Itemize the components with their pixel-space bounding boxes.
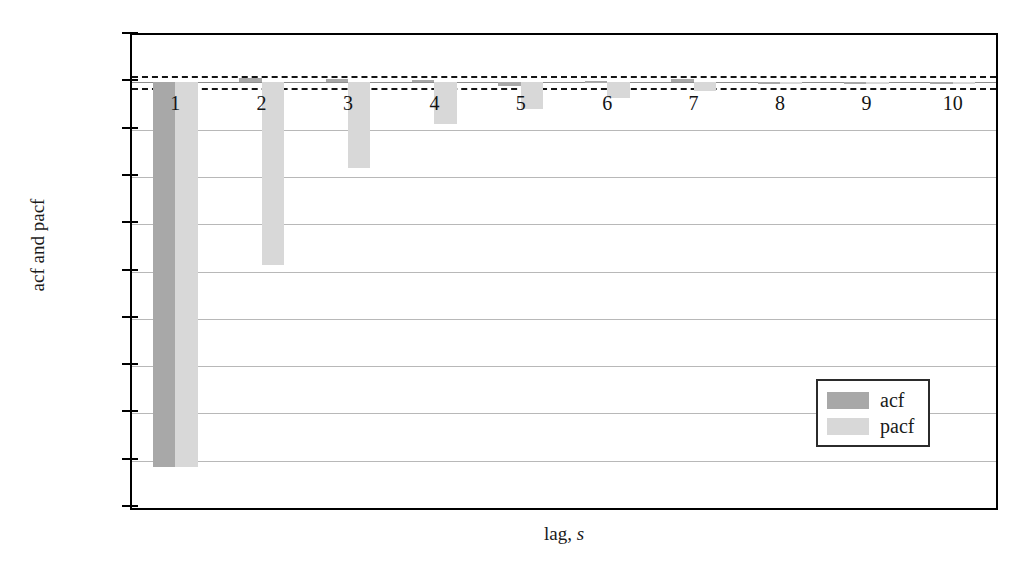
bar-pacf-lag-7 — [694, 82, 716, 91]
bar-acf-lag-1 — [153, 82, 175, 467]
bar-acf-lag-7 — [671, 79, 693, 82]
bar-pacf-lag-8 — [780, 82, 802, 84]
bar-pacf-lag-9 — [866, 82, 888, 84]
y-axis-tick-mark — [122, 458, 138, 460]
x-axis-tick-label-lag-3: 3 — [318, 93, 378, 113]
gridline — [132, 366, 996, 367]
x-axis-tick-label-lag-7: 7 — [664, 93, 724, 113]
x-axis-tick-label-lag-4: 4 — [404, 93, 464, 113]
y-axis-tick-mark — [122, 32, 138, 34]
y-axis-tick-mark — [122, 363, 138, 365]
x-axis-title: lag, s — [130, 523, 998, 545]
x-axis-title-plain: lag, — [544, 523, 577, 544]
bar-acf-lag-2 — [239, 78, 261, 83]
bar-acf-lag-8 — [758, 82, 780, 84]
y-axis-tick-mark — [122, 79, 138, 81]
legend-swatch-pacf — [827, 418, 869, 435]
bar-acf-lag-6 — [585, 81, 607, 83]
y-axis-tick-mark — [122, 316, 138, 318]
legend-swatch-acf — [827, 392, 869, 409]
x-axis-tick-label-lag-5: 5 — [491, 93, 551, 113]
x-axis-tick-label-lag-2: 2 — [232, 93, 292, 113]
x-axis-tick-label-lag-1: 1 — [145, 93, 205, 113]
x-axis-tick-label-lag-9: 9 — [836, 93, 896, 113]
legend-item: acf — [827, 387, 914, 413]
legend-item: pacf — [827, 413, 914, 439]
bar-acf-lag-9 — [844, 82, 866, 84]
y-axis-title: acf and pacf — [27, 145, 49, 345]
x-axis-title-italic: s — [577, 523, 584, 544]
y-axis-tick-mark — [122, 174, 138, 176]
y-axis-tick-mark — [122, 410, 138, 412]
bar-pacf-lag-1 — [175, 82, 197, 467]
gridline — [132, 461, 996, 462]
confidence-band-line — [132, 76, 996, 78]
y-axis-tick-mark — [122, 127, 138, 129]
bar-acf-lag-10 — [930, 82, 952, 84]
x-axis-tick-label-lag-8: 8 — [750, 93, 810, 113]
bar-acf-lag-4 — [412, 80, 434, 82]
y-axis-tick-mark — [122, 505, 138, 507]
acf-pacf-chart-figure: acf and pacf lag, s 12345678910 0.050−0.… — [0, 0, 1015, 570]
bar-acf-lag-5 — [498, 82, 520, 86]
gridline — [132, 319, 996, 320]
chart-legend: acfpacf — [816, 379, 930, 447]
x-axis-tick-label-lag-6: 6 — [577, 93, 637, 113]
x-axis-tick-label-lag-10: 10 — [923, 93, 983, 113]
gridline — [132, 272, 996, 273]
bar-pacf-lag-10 — [953, 82, 975, 84]
legend-label-pacf: pacf — [880, 416, 914, 436]
y-axis-tick-mark — [122, 221, 138, 223]
legend-label-acf: acf — [880, 390, 904, 410]
bar-acf-lag-3 — [326, 79, 348, 83]
y-axis-tick-mark — [122, 269, 138, 271]
